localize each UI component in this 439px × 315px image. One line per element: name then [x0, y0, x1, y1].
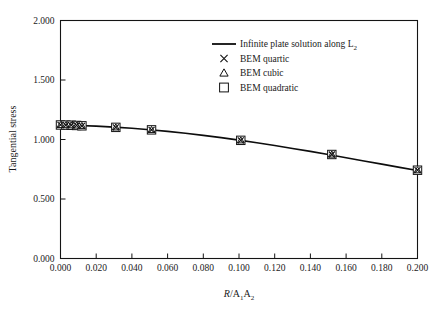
x-axis-title-r: R [223, 288, 230, 299]
y-tick-label: 1.000 [33, 135, 55, 145]
y-tick-label: 0.500 [33, 194, 55, 204]
x-tick-label: 0.160 [335, 263, 357, 273]
x-tick-label: 0.000 [50, 263, 72, 273]
legend-marker-square [220, 83, 229, 92]
x-tick-label: 0.120 [264, 263, 286, 273]
x-tick-label: 0.020 [86, 263, 108, 273]
x-tick-label: 0.180 [371, 263, 393, 273]
x-tick-label: 0.100 [228, 263, 250, 273]
legend-label: BEM quartic [240, 54, 289, 64]
x-tick-label: 0.140 [300, 263, 322, 273]
legend-label: BEM quadratic [240, 83, 298, 93]
y-tick-label: 1.500 [33, 75, 55, 85]
x-axis-tick-labels: 0.0000.0200.0400.0600.0800.1000.1200.140… [50, 263, 429, 273]
chart-figure: 0.0000.0200.0400.0600.0800.1000.1200.140… [0, 0, 439, 315]
x-axis-title-sub2: 2 [251, 294, 255, 302]
tangential-stress-chart: 0.0000.0200.0400.0600.0800.1000.1200.140… [0, 0, 439, 315]
x-tick-label: 0.060 [157, 263, 179, 273]
y-tick-label: 0.000 [33, 254, 55, 264]
x-tick-label: 0.080 [193, 263, 215, 273]
x-tick-label: 0.040 [121, 263, 143, 273]
legend-label: BEM cubic [240, 68, 284, 78]
y-axis-title: Tangential stress [7, 106, 18, 173]
x-tick-label: 0.200 [407, 263, 429, 273]
y-tick-label: 2.000 [33, 16, 55, 26]
